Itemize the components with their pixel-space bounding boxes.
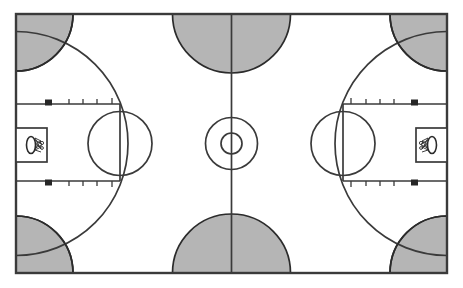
hoop-ring-left (27, 137, 36, 154)
hoop-assembly-right (416, 128, 447, 162)
lane-block-right-top (411, 100, 418, 106)
hoop-ring-right (428, 137, 437, 154)
lane-block-left-top (45, 100, 52, 106)
lane-block-left-bottom (45, 180, 52, 186)
lane-block-right-bottom (411, 180, 418, 186)
court-svg-canvas (0, 0, 463, 288)
hoop-assembly-left (16, 128, 47, 162)
basketball-court-diagram (0, 0, 463, 288)
